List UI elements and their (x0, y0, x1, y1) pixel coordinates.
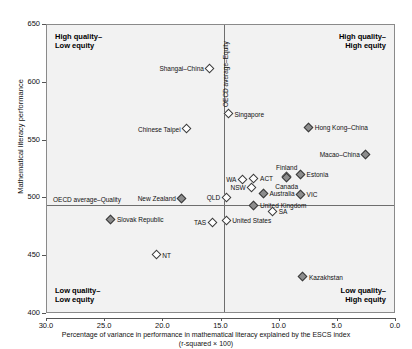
x-tick-mark (162, 318, 163, 321)
x-tick-label: 20.0 (147, 322, 177, 330)
y-tick-label: 500 (14, 193, 40, 201)
x-tick-label: 0.0 (380, 322, 410, 330)
y-tick-label: 450 (14, 251, 40, 259)
y-tick-label: 550 (14, 136, 40, 144)
x-tick-label: 5.0 (322, 322, 352, 330)
y-tick-label: 650 (14, 20, 40, 28)
x-axis-title: Percentage of variance in performance in… (0, 331, 412, 348)
y-tick-label: 600 (14, 78, 40, 86)
y-tick-labels: 650600550500450400 (0, 0, 412, 349)
y-tick-mark (42, 140, 46, 141)
x-tick-label: 30.0 (31, 322, 61, 330)
y-tick-mark (42, 313, 46, 314)
x-axis-title-main: Percentage of variance in performance in… (62, 331, 350, 338)
x-tick-label: 25.0 (89, 322, 119, 330)
chart-root: Mathematical literacy performance High q… (0, 0, 412, 349)
x-tick-mark (395, 318, 396, 321)
y-tick-mark (42, 82, 46, 83)
x-tick-mark (337, 318, 338, 321)
y-tick-mark (42, 255, 46, 256)
x-tick-mark (104, 318, 105, 321)
x-tick-mark (279, 318, 280, 321)
x-tick-mark (221, 318, 222, 321)
x-tick-label: 15.0 (206, 322, 236, 330)
y-tick-label: 400 (14, 309, 40, 317)
y-tick-mark (42, 24, 46, 25)
x-tick-labels: 30.025.020.015.010.05.00.0 (46, 318, 395, 332)
x-tick-label: 10.0 (264, 322, 294, 330)
y-tick-mark (42, 197, 46, 198)
x-tick-mark (46, 318, 47, 321)
x-axis-title-sub: (r-squared × 100) (0, 340, 412, 349)
